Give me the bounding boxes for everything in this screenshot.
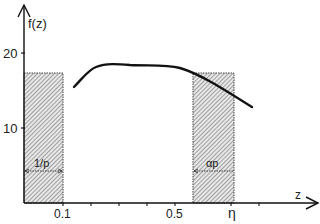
x-tick-eta: η (228, 205, 236, 221)
y-tick-20: 20 (3, 46, 17, 61)
x-tick-0.5: 0.5 (166, 207, 183, 221)
x-axis-label: z (295, 188, 301, 202)
y-tick-10: 10 (3, 121, 17, 136)
right-width-label: αp (206, 157, 218, 169)
left-shaded-region (24, 73, 63, 203)
y-axis-label: f(z) (28, 16, 47, 31)
left-width-label: 1/p (34, 157, 49, 169)
x-tick-0.1: 0.1 (54, 207, 71, 221)
chart: 1/p αp f(z) z 20 10 0.1 0.5 η (0, 0, 320, 224)
